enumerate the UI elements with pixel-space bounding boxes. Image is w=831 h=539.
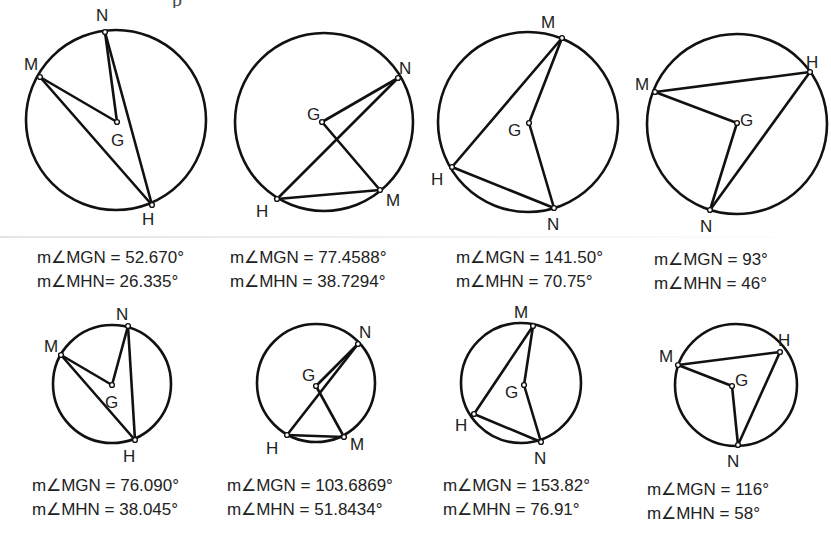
point-n [552, 206, 557, 211]
inscribed-angle-figure: NMGH [44, 305, 171, 466]
chord-hn [474, 414, 541, 442]
point-label-h: H [778, 331, 790, 350]
point-label-g: G [105, 393, 118, 412]
point-h [778, 350, 783, 355]
radius-gn [529, 123, 554, 208]
angle-caption: m∠MGN = 76.090°m∠MHN = 38.045° [32, 474, 179, 522]
chord-hn [128, 326, 135, 440]
point-label-h: H [266, 439, 278, 458]
chord-hn [710, 72, 810, 210]
point-label-m: M [635, 75, 649, 94]
inscribed-angle-figure: MHGN [659, 324, 797, 471]
point-g [110, 383, 115, 388]
central-angle-measure: m∠MGN = 52.670° [37, 246, 184, 270]
radius-gm [61, 355, 112, 385]
circle [461, 323, 581, 443]
inscribed-angle-measure: m∠MHN= 26.335° [37, 270, 184, 294]
point-label-g: G [740, 111, 753, 130]
angle-caption: m∠MGN = 52.670°m∠MHN= 26.335° [37, 246, 184, 294]
point-label-n: N [547, 215, 559, 234]
point-label-h: H [256, 202, 268, 221]
radius-gn [112, 326, 128, 385]
point-h [133, 438, 138, 443]
point-m [531, 324, 536, 329]
point-label-m: M [386, 191, 400, 210]
point-m [378, 188, 383, 193]
point-n [736, 443, 741, 448]
point-label-n: N [534, 449, 546, 468]
central-angle-measure: m∠MGN = 77.4588° [230, 246, 386, 270]
angle-caption: m∠MGN = 93°m∠MHN = 46° [654, 248, 768, 296]
point-h [472, 412, 477, 417]
inscribed-angle-measure: m∠MHN = 70.75° [456, 270, 603, 294]
radius-gn [710, 123, 737, 210]
point-g [730, 384, 735, 389]
point-g [735, 121, 740, 126]
angle-caption: m∠MGN = 141.50°m∠MHN = 70.75° [456, 246, 603, 294]
point-m [676, 363, 681, 368]
angle-caption: m∠MGN = 77.4588°m∠MHN = 38.7294° [230, 246, 386, 294]
point-label-h: H [123, 447, 135, 466]
point-label-n: N [96, 6, 108, 25]
central-angle-measure: m∠MGN = 116° [647, 478, 769, 502]
angle-caption: m∠MGN = 153.82°m∠MHN = 76.91° [443, 474, 590, 522]
radius-gm [655, 92, 737, 123]
point-label-h: H [142, 210, 154, 229]
central-angle-measure: m∠MGN = 103.6869° [227, 474, 393, 498]
radius-gm [529, 38, 562, 123]
radius-gn [105, 32, 117, 122]
central-angle-measure: m∠MGN = 153.82° [443, 474, 590, 498]
point-label-m: M [44, 337, 58, 356]
point-g [522, 383, 527, 388]
point-label-n: N [399, 59, 411, 78]
point-label-g: G [508, 121, 521, 140]
point-h [285, 433, 290, 438]
inscribed-angle-measure: m∠MHN = 38.7294° [230, 270, 386, 294]
inscribed-angle-measure: m∠MHN = 58° [647, 502, 769, 526]
point-label-g: G [735, 371, 748, 390]
point-m [560, 36, 565, 41]
point-g [320, 120, 325, 125]
inscribed-angle-figure: MGHN [431, 13, 618, 234]
point-label-g: G [307, 105, 320, 124]
point-n [539, 440, 544, 445]
inscribed-angle-measure: m∠MHN = 46° [654, 272, 768, 296]
point-g [527, 121, 532, 126]
point-n [103, 30, 108, 35]
point-label-n: N [359, 323, 371, 342]
point-label-m: M [514, 303, 528, 322]
chord-mh [678, 352, 780, 365]
chord-hn [738, 352, 780, 445]
central-angle-measure: m∠MGN = 141.50° [456, 246, 603, 270]
inscribed-angle-figure: MHGN [635, 34, 827, 236]
inscribed-angle-measure: m∠MHN = 76.91° [443, 498, 590, 522]
point-label-m: M [24, 55, 38, 74]
central-angle-measure: m∠MGN = 76.090° [32, 474, 179, 498]
inscribed-angle-figure: NGMH [257, 323, 375, 458]
chord-hn [287, 344, 358, 435]
point-label-g: G [302, 366, 315, 385]
chord-hn [277, 78, 398, 199]
point-label-m: M [541, 13, 555, 32]
point-label-n: N [700, 217, 712, 236]
chord-mh [287, 435, 344, 437]
point-label-h: H [806, 53, 818, 72]
inscribed-angle-measure: m∠MHN = 51.8434° [227, 498, 393, 522]
inscribed-angle-figure: MGHN [455, 303, 581, 468]
point-n [708, 208, 713, 213]
point-h [150, 203, 155, 208]
point-label-n: N [116, 305, 128, 324]
inscribed-angle-measure: m∠MHN = 38.045° [32, 498, 179, 522]
radius-gn [524, 385, 541, 442]
point-h [450, 165, 455, 170]
point-m [342, 435, 347, 440]
point-label-m: M [659, 347, 673, 366]
radius-gm [40, 77, 117, 122]
angle-caption: m∠MGN = 116°m∠MHN = 58° [647, 478, 769, 526]
radius-gm [678, 365, 732, 386]
point-g [115, 120, 120, 125]
point-m [653, 90, 658, 95]
point-label-h: H [431, 170, 443, 189]
point-label-h: H [455, 416, 467, 435]
inscribed-angle-figure: NMGH [24, 6, 206, 229]
